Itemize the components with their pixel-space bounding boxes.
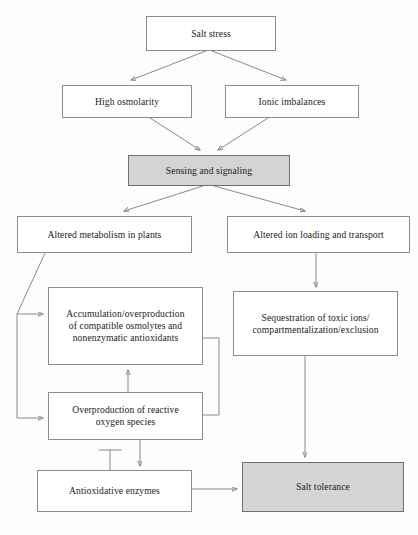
edge-sensing-to-altered-metabolism	[124, 186, 203, 211]
node-altered-ion-loading[interactable]: Altered ion loading and transport	[227, 216, 410, 253]
node-altered-metabolism[interactable]: Altered metabolism in plants	[17, 216, 192, 253]
node-salt-stress[interactable]: Salt stress	[146, 16, 276, 51]
node-overproduction-ros-label: Overproduction of reactive oxygen specie…	[72, 404, 179, 428]
node-accumulation-osmolytes-label: Accumulation/overproduction of compatibl…	[66, 308, 184, 344]
edge-high-osmolarity-to-sensing	[150, 118, 200, 150]
edge-antioxidative-enzymes-inhibits-ros	[99, 450, 122, 470]
node-high-osmolarity[interactable]: High osmolarity	[62, 85, 192, 118]
node-accumulation-osmolytes[interactable]: Accumulation/overproduction of compatibl…	[48, 287, 203, 365]
edge-salt-stress-to-ionic-imbalances	[212, 51, 286, 80]
node-salt-tolerance-label: Salt tolerance	[296, 481, 350, 493]
node-antioxidative-enzymes-label: Antioxidative enzymes	[69, 485, 160, 497]
flowchart-edges	[0, 0, 418, 535]
node-ionic-imbalances-label: Ionic imbalances	[259, 96, 326, 108]
node-sensing-and-signaling[interactable]: Sensing and signaling	[128, 155, 290, 186]
edge-ionic-imbalances-to-sensing	[218, 118, 268, 150]
edge-salt-stress-to-high-osmolarity	[131, 51, 206, 80]
node-altered-metabolism-label: Altered metabolism in plants	[48, 229, 162, 241]
node-overproduction-ros[interactable]: Overproduction of reactive oxygen specie…	[48, 392, 203, 440]
edge-sensing-to-altered-ion-loading	[214, 186, 305, 211]
node-salt-stress-label: Salt stress	[191, 28, 231, 40]
node-sensing-and-signaling-label: Sensing and signaling	[166, 165, 252, 177]
node-high-osmolarity-label: High osmolarity	[95, 96, 159, 108]
node-sequestration-toxic-ions[interactable]: Sequestration of toxic ions/ compartment…	[233, 291, 398, 356]
edge-altered-metabolism-to-accumulation	[17, 253, 45, 314]
node-ionic-imbalances[interactable]: Ionic imbalances	[225, 85, 359, 118]
node-salt-tolerance[interactable]: Salt tolerance	[242, 462, 404, 512]
node-antioxidative-enzymes[interactable]: Antioxidative enzymes	[37, 470, 192, 512]
node-altered-ion-loading-label: Altered ion loading and transport	[253, 229, 384, 241]
edge-altered-metabolism-to-ros	[17, 314, 43, 418]
node-sequestration-toxic-ions-label: Sequestration of toxic ions/ compartment…	[252, 312, 378, 336]
edge-accumulation-inhibits-ros	[202, 338, 219, 425]
flowchart-canvas: Salt stress High osmolarity Ionic imbala…	[0, 0, 418, 535]
